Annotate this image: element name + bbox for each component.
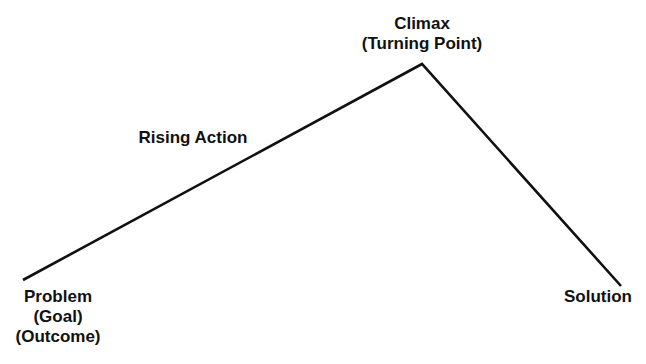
- rising-action-title: Rising Action: [130, 128, 256, 148]
- climax-label: Climax (Turning Point): [352, 14, 492, 54]
- climax-subtitle: (Turning Point): [352, 34, 492, 54]
- plot-arc-line: [23, 64, 621, 286]
- rising-action-label: Rising Action: [130, 128, 256, 148]
- problem-outcome: (Outcome): [8, 327, 108, 347]
- plot-diagram: Climax (Turning Point) Rising Action Pro…: [0, 0, 646, 364]
- solution-label: Solution: [556, 287, 640, 307]
- problem-goal: (Goal): [8, 307, 108, 327]
- problem-label: Problem (Goal) (Outcome): [8, 287, 108, 347]
- problem-title: Problem: [8, 287, 108, 307]
- climax-title: Climax: [352, 14, 492, 34]
- solution-title: Solution: [556, 287, 640, 307]
